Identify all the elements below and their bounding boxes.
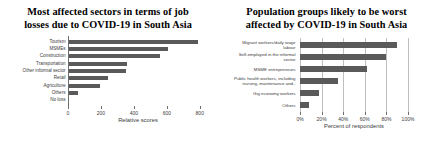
left-bar bbox=[68, 54, 160, 58]
left-x-tick bbox=[101, 106, 102, 109]
right-x-tick bbox=[386, 112, 387, 115]
right-category-label: Migrant workers/daily wagelabour bbox=[218, 40, 298, 50]
right-chart-title-line1: Population groups likely to be worst bbox=[216, 6, 437, 19]
right-category-label-line: nursing, maintenance and.. bbox=[218, 81, 296, 86]
left-x-tick-label: 200 bbox=[97, 110, 105, 116]
right-x-tick-label: 20% bbox=[317, 116, 327, 122]
right-gridline bbox=[322, 38, 323, 112]
left-bar bbox=[68, 62, 127, 66]
left-category-label: MSMEs bbox=[0, 46, 68, 51]
right-x-tick bbox=[365, 112, 366, 115]
right-x-tick-label: 0% bbox=[296, 116, 303, 122]
right-x-tick-label: 80% bbox=[381, 116, 391, 122]
left-chart-title: Most affected sectors in terms of job lo… bbox=[0, 0, 216, 31]
right-category-label-line: sector bbox=[218, 57, 296, 62]
right-category-label: Others bbox=[218, 103, 298, 108]
left-bars-area: 0200400600800Relative scores bbox=[68, 36, 208, 120]
right-plot-area: Migrant workers/daily wagelabourSelf-emp… bbox=[216, 38, 437, 128]
right-gridline bbox=[343, 38, 344, 112]
right-bar bbox=[300, 66, 367, 71]
right-category-label-line: Others bbox=[218, 103, 296, 108]
right-x-tick bbox=[408, 112, 409, 115]
left-x-tick-label: 0 bbox=[67, 110, 70, 116]
right-x-tick-label: 40% bbox=[338, 116, 348, 122]
left-category-label: Others bbox=[0, 90, 68, 95]
left-x-tick-label: 400 bbox=[130, 110, 138, 116]
right-category-label: Public health workers, includingnursing,… bbox=[218, 76, 298, 86]
left-x-tick-label: 800 bbox=[196, 110, 204, 116]
left-x-tick-label: 600 bbox=[163, 110, 171, 116]
right-x-axis-title: Percent of respondents bbox=[300, 123, 408, 129]
left-bar bbox=[68, 84, 100, 88]
right-x-tick-label: 100% bbox=[402, 116, 415, 122]
left-category-label: No loss bbox=[0, 97, 68, 102]
left-bar bbox=[68, 40, 198, 44]
left-x-tick bbox=[68, 106, 69, 109]
left-category-label: Other informal sector bbox=[0, 68, 68, 73]
right-gridline bbox=[408, 38, 409, 112]
left-bar bbox=[68, 47, 168, 51]
right-x-tick bbox=[300, 112, 301, 115]
right-bar bbox=[300, 102, 309, 107]
right-category-label-line: labour bbox=[218, 45, 296, 50]
right-bar bbox=[300, 42, 397, 47]
right-bar bbox=[300, 78, 338, 83]
right-x-tick bbox=[343, 112, 344, 115]
right-chart-title: Population groups likely to be worst aff… bbox=[216, 0, 437, 31]
right-x-tick bbox=[322, 112, 323, 115]
figure-two-bar-charts: Most affected sectors in terms of job lo… bbox=[0, 0, 437, 165]
left-bar bbox=[68, 91, 78, 95]
left-value-axis-line bbox=[68, 36, 69, 106]
right-chart-title-line2: affected by COVID-19 in South Asia bbox=[216, 19, 437, 32]
right-gridline bbox=[365, 38, 366, 112]
left-x-tick bbox=[167, 106, 168, 109]
left-category-label: Retail bbox=[0, 75, 68, 80]
left-bar bbox=[68, 69, 126, 73]
chart-panel-left: Most affected sectors in terms of job lo… bbox=[0, 0, 216, 165]
left-category-label: Construction bbox=[0, 53, 68, 58]
right-gridline bbox=[300, 38, 301, 112]
right-gridline bbox=[386, 38, 387, 112]
right-category-label: MSME entrepreneurs bbox=[218, 67, 298, 72]
left-x-tick bbox=[134, 106, 135, 109]
left-category-label: Transportation bbox=[0, 61, 68, 66]
chart-panel-right: Population groups likely to be worst aff… bbox=[216, 0, 437, 165]
left-chart-title-line2: losses due to COVID-19 in South Asia bbox=[0, 19, 216, 32]
right-category-label-line: Gig economy workers bbox=[218, 91, 296, 96]
right-category-axis: Migrant workers/daily wagelabourSelf-emp… bbox=[218, 38, 298, 128]
right-bar bbox=[300, 54, 386, 59]
left-x-axis-title: Relative scores bbox=[68, 117, 208, 123]
left-chart-title-line1: Most affected sectors in terms of job bbox=[0, 6, 216, 19]
left-category-label: Agriculture bbox=[0, 83, 68, 88]
left-category-label: Tourism bbox=[0, 39, 68, 44]
right-bars-area: 0%20%40%60%80%100%Percent of respondents bbox=[300, 38, 420, 128]
right-bar bbox=[300, 90, 319, 95]
left-plot-area: TourismMSMEsConstructionTransportationOt… bbox=[0, 36, 216, 120]
left-bar bbox=[68, 76, 108, 80]
right-category-label: Gig economy workers bbox=[218, 91, 298, 96]
left-x-tick bbox=[200, 106, 201, 109]
left-category-axis: TourismMSMEsConstructionTransportationOt… bbox=[0, 36, 68, 120]
right-category-label: Self-employed in the informalsector bbox=[218, 52, 298, 62]
right-x-tick-label: 60% bbox=[360, 116, 370, 122]
right-category-label-line: MSME entrepreneurs bbox=[218, 67, 296, 72]
